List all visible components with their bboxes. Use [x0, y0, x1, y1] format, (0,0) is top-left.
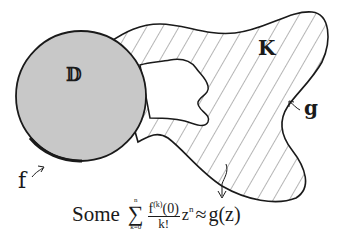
runge-approximation-diagram: 𝔻 K g f Some n ∑ k=0 f(k)(0) k! zn ≈ g(z… — [0, 0, 342, 239]
numerator-superscript: (k) — [153, 200, 162, 209]
unit-disk-d — [16, 31, 146, 161]
approx-symbol: ≈ — [195, 203, 206, 226]
compact-set-label: K — [258, 38, 275, 58]
disk-label: 𝔻 — [66, 66, 82, 84]
g-label: g — [304, 98, 318, 118]
taylor-formula: Some n ∑ k=0 f(k)(0) k! zn ≈ g(z) — [72, 194, 241, 234]
power-base: z — [182, 206, 189, 223]
sum-lower-limit: k=0 — [130, 224, 141, 231]
formula-rhs: g(z) — [208, 203, 240, 226]
power-term: zn — [182, 204, 194, 224]
fraction-denominator: k! — [158, 217, 169, 231]
power-exponent: n — [189, 204, 194, 214]
f-arrow-icon — [32, 166, 44, 177]
f-label: f — [18, 170, 26, 192]
formula-prefix: Some — [72, 202, 120, 227]
fraction-numerator: f(k)(0) — [148, 197, 180, 217]
sigma-icon: ∑ — [128, 204, 144, 224]
coefficient-fraction: f(k)(0) k! — [148, 197, 180, 231]
g-arrow-icon — [289, 101, 300, 110]
summation: n ∑ k=0 — [128, 197, 144, 231]
numerator-argument: (0) — [163, 201, 179, 216]
